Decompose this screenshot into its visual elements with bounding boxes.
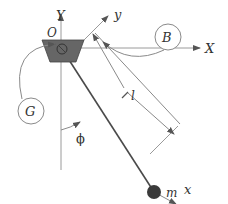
label-O: O	[47, 26, 57, 40]
label-m: m	[166, 186, 177, 200]
frame-B-callout: B	[103, 24, 181, 56]
global-y-axis: Y	[56, 8, 66, 170]
label-B: B	[161, 30, 172, 45]
label-X: X	[204, 41, 215, 56]
label-phi: ϕ	[76, 131, 85, 146]
label-y: y	[113, 7, 122, 22]
global-x-axis: X	[62, 41, 215, 56]
angle-phi: ϕ	[61, 122, 85, 146]
label-l: l	[131, 89, 135, 103]
label-Y: Y	[56, 8, 66, 23]
pivot-support: O	[42, 26, 84, 62]
length-dimension: l	[93, 33, 180, 154]
label-G: G	[25, 104, 35, 119]
pendulum-diagram: Y X y x l O m ϕ	[0, 0, 228, 204]
label-x: x	[184, 182, 192, 197]
pendulum-rod: x	[62, 49, 192, 204]
mass: m	[147, 185, 177, 200]
